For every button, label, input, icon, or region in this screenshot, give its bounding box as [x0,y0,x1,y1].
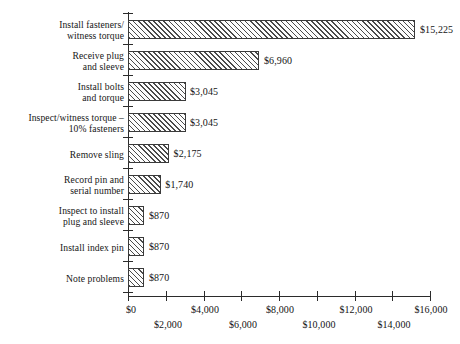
x-axis-tick-label: $16,000 [414,304,447,316]
x-axis-tick-label: $0 [126,304,136,316]
plot-area: $15,225 $6,960 $3,045 $3,045 $2,175 $1,7… [128,14,430,292]
x-axis-tick-label: $14,000 [377,319,410,331]
bar-value-label: $6,960 [264,51,292,70]
category-label: Record pin and serial number [64,174,128,196]
bar-value-label: $870 [149,268,169,287]
bar-value-label: $870 [149,237,169,256]
category-label: Install index pin [60,242,128,253]
x-axis-tick [392,291,393,301]
x-axis-tick [241,291,242,301]
bar-chart: Install fasteners/ witness torque Receiv… [0,0,460,344]
bar-value-label: $15,225 [420,20,453,39]
bar-value-label: $3,045 [190,113,218,132]
x-axis-tick [279,291,280,301]
category-label: Inspect to install plug and sleeve [59,205,128,227]
x-axis-tick-label: $2,000 [154,319,182,331]
bar [128,82,186,101]
x-axis-tick-label: $10,000 [302,319,335,331]
bar [128,51,259,70]
bar [128,237,144,256]
bar [128,113,186,132]
category-label: Install bolts and torque [78,81,128,103]
x-axis-tick [317,291,318,301]
x-axis-tick [128,291,129,301]
bar [128,268,144,287]
x-axis-tick-label: $8,000 [266,304,294,316]
x-axis-tick-label: $4,000 [191,304,219,316]
x-axis-tick [204,291,205,301]
x-axis-tick-label: $12,000 [339,304,372,316]
x-axis-tick [166,291,167,301]
bar-value-label: $2,175 [174,144,202,163]
bar [128,175,161,194]
bar [128,144,169,163]
category-label: Receive plug and sleeve [72,50,128,72]
category-label: Note problems [66,273,128,284]
bar [128,20,415,39]
bar-value-label: $3,045 [190,82,218,101]
category-label: Inspect/witness torque – 10% fasteners [28,112,128,134]
bar-value-label: $1,740 [165,175,193,194]
bar-value-label: $870 [149,206,169,225]
bar [128,206,144,225]
x-axis-tick [355,291,356,301]
category-label: Install fasteners/ witness torque [59,19,128,41]
x-axis-tick [430,291,431,301]
x-axis-tick-label: $6,000 [229,319,257,331]
category-label: Remove sling [70,149,128,160]
